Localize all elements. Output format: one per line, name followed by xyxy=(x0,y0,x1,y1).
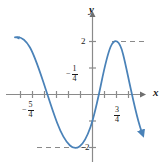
fraction-one-quarter: 1 4 xyxy=(72,65,78,83)
fraction-five-fourths: 5 4 xyxy=(28,101,34,119)
y-axis-label: y xyxy=(89,4,94,15)
y-tick-label-minus-2: −2 xyxy=(80,143,90,152)
graph-figure: y x 2 −2 − 1 4 − 5 4 3 xyxy=(0,0,167,168)
x-axis-label: x xyxy=(153,87,159,98)
fraction-three-fourths: 3 4 xyxy=(114,106,120,124)
x-tick-label-minus-one-quarter: − 1 4 xyxy=(66,63,78,83)
x-axis xyxy=(6,91,141,98)
fraction-denominator: 4 xyxy=(114,116,120,124)
fraction-numerator: 1 xyxy=(72,65,78,73)
fraction-numerator: 3 xyxy=(114,106,120,114)
x-tick-label-three-fourths: 3 4 xyxy=(114,99,120,124)
minus-sign-quarter: − xyxy=(66,70,71,78)
y-axis xyxy=(89,16,96,162)
y-tick-label-2: 2 xyxy=(81,37,86,46)
minus-sign-five-fourths: − xyxy=(22,106,27,114)
sine-curve xyxy=(14,37,142,148)
fraction-denominator: 4 xyxy=(28,111,34,119)
x-tick-label-minus-five-fourths: − 5 4 xyxy=(22,99,34,119)
fraction-numerator: 5 xyxy=(28,101,34,109)
fraction-denominator: 4 xyxy=(72,75,78,83)
